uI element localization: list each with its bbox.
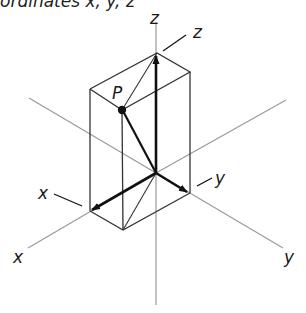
point-P-dot xyxy=(118,106,126,114)
y-axis-label: y xyxy=(283,247,295,267)
y-leader-line xyxy=(197,178,212,186)
x-axis-label: x xyxy=(12,247,24,267)
z-axis-label: z xyxy=(149,8,160,28)
y-vector-label: y xyxy=(214,168,226,188)
3d-coordinate-diagram: z z P y y x x xyxy=(0,0,306,313)
vectors xyxy=(92,56,187,210)
x-leader-line xyxy=(54,194,82,206)
z-leader-line xyxy=(163,35,186,51)
x-axis-back-line xyxy=(156,100,286,173)
point-P-label: P xyxy=(112,83,123,103)
x-vector-label: x xyxy=(37,183,49,203)
top-diagonal xyxy=(122,53,157,110)
box-edge-front xyxy=(122,110,123,230)
z-vector-label: z xyxy=(192,22,203,42)
box-bottom-face xyxy=(90,193,190,230)
x-vector xyxy=(92,173,156,210)
y-vector xyxy=(156,173,187,192)
